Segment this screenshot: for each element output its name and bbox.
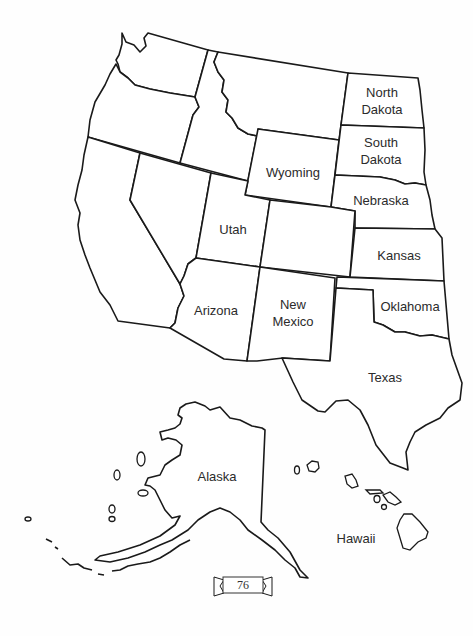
label-texas: Texas [368, 369, 402, 386]
label-kansas: Kansas [377, 247, 420, 264]
label-line: South [360, 134, 401, 151]
island [25, 517, 31, 521]
label-south-dakota: South Dakota [360, 134, 401, 168]
label-wyoming: Wyoming [266, 164, 320, 181]
label-line: New [272, 296, 313, 313]
hawaii-island-niihau [295, 466, 300, 474]
label-new-mexico: New Mexico [272, 296, 313, 330]
hawaii-island-maui [383, 492, 401, 505]
label-line: Mexico [272, 313, 313, 330]
label-line: Dakota [360, 151, 401, 168]
book-page: North Dakota South Dakota Wyoming Nebras… [0, 0, 473, 636]
label-hawaii: Hawaii [336, 530, 375, 547]
state-alaska [95, 402, 308, 578]
page-number: 76 [223, 577, 263, 593]
label-oklahoma: Oklahoma [380, 298, 439, 315]
island [114, 470, 120, 480]
label-arizona: Arizona [194, 302, 238, 319]
label-nebraska: Nebraska [353, 192, 409, 209]
label-north-dakota: North Dakota [361, 84, 402, 118]
hawaii-island-oahu [345, 474, 358, 488]
hawaii-island-big-island [397, 514, 428, 550]
island [109, 505, 115, 513]
label-line: North [361, 84, 402, 101]
label-alaska: Alaska [197, 468, 236, 485]
island [109, 517, 115, 522]
label-utah: Utah [219, 221, 246, 238]
hawaii-island-lanai [374, 496, 380, 503]
hawaii-island-kahoolawe [382, 505, 387, 510]
label-line: Dakota [361, 101, 402, 118]
island [138, 490, 148, 496]
state-colorado [260, 200, 355, 277]
hawaii-island-kauai [307, 461, 319, 472]
island [137, 452, 145, 466]
hawaii-island-molokai [366, 490, 383, 494]
